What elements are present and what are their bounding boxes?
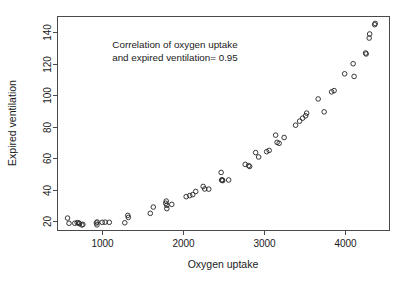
plot-canvas: 1000200030004000 20406080100120140 Oxyge…: [0, 0, 413, 291]
y-tick-label: 140: [42, 24, 53, 41]
scatter-plot-figure: 1000200030004000 20406080100120140 Oxyge…: [0, 0, 413, 291]
data-point: [351, 61, 356, 66]
x-tick-label: 1000: [91, 238, 114, 249]
y-tick-label: 100: [42, 87, 53, 104]
data-point: [67, 221, 72, 226]
data-point: [151, 205, 156, 210]
data-point: [122, 220, 127, 225]
y-tick-label: 20: [42, 216, 53, 228]
data-point: [273, 133, 278, 138]
y-axis-ticks: 20406080100120140: [42, 24, 57, 227]
data-point: [226, 178, 231, 183]
data-point: [256, 155, 261, 160]
correlation-note-line2: and expired ventilation= 0.95: [112, 52, 238, 63]
y-tick-label: 40: [42, 185, 53, 197]
x-tick-label: 2000: [172, 238, 195, 249]
x-axis-ticks: 1000200030004000: [91, 231, 357, 249]
data-point: [65, 216, 70, 221]
data-point: [282, 135, 287, 140]
data-point: [219, 170, 224, 175]
y-axis-title: Expired ventilation: [6, 80, 18, 166]
y-tick-label: 60: [42, 153, 53, 165]
data-point: [322, 110, 327, 115]
data-point: [169, 202, 174, 207]
data-point: [148, 211, 153, 216]
data-point: [352, 74, 357, 79]
data-point: [293, 123, 298, 128]
data-point: [165, 206, 170, 211]
data-point: [342, 71, 347, 76]
y-tick-label: 80: [42, 122, 53, 134]
data-point: [253, 150, 258, 155]
correlation-note-line1: Correlation of oxygen uptake: [112, 39, 238, 50]
data-point: [316, 97, 321, 102]
data-point: [193, 189, 198, 194]
y-tick-label: 120: [42, 56, 53, 73]
x-tick-label: 4000: [334, 238, 357, 249]
x-tick-label: 3000: [253, 238, 276, 249]
x-axis-title: Oxygen uptake: [188, 258, 259, 270]
